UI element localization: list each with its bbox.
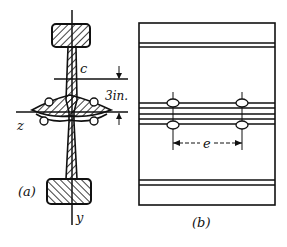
dimension-label: 3in.	[105, 89, 128, 103]
built-up-section-diagram: c 3in. z y (a) e (b)	[0, 0, 287, 247]
figure-b-label: (b)	[192, 215, 210, 230]
figure-b-elevation: e (b)	[139, 23, 275, 230]
figure-a-cross-section: c 3in. z y (a)	[16, 10, 128, 225]
axis-y-label: y	[75, 210, 84, 225]
figure-a-label: (a)	[18, 184, 36, 199]
point-c-label: c	[80, 61, 88, 76]
axis-z-label: z	[16, 118, 24, 133]
spacing-e-label: e	[203, 136, 211, 151]
